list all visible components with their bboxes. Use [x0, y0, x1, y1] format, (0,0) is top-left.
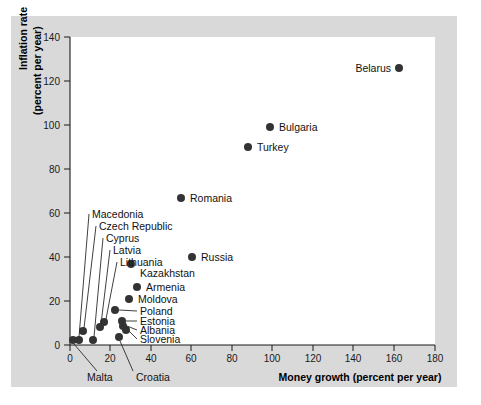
point-label-armenia: Armenia: [146, 281, 185, 293]
x-tick-label-0: 0: [67, 353, 73, 364]
dot-turkey[interactable]: [244, 143, 252, 151]
point-label-belarus: Belarus: [355, 62, 391, 74]
y-tick-label-100: 100: [43, 120, 60, 131]
x-axis-title: Money growth (percent per year): [279, 371, 442, 383]
dot-poland[interactable]: [111, 306, 119, 314]
y-tick-label-140: 140: [43, 32, 60, 43]
callout-label-cyprus: Cyprus: [106, 232, 139, 244]
figure-container: 0 20 40 60 80 100 120 140 0 20 40 60 80: [0, 0, 481, 405]
point-label-russia: Russia: [201, 251, 233, 263]
dot-bulgaria[interactable]: [266, 123, 274, 131]
x-tick-label-140: 140: [345, 353, 362, 364]
dot-czech-republic[interactable]: [79, 327, 87, 335]
dot-moldova[interactable]: [125, 295, 133, 303]
dot-latvia[interactable]: [96, 323, 104, 331]
y-tick-label-120: 120: [43, 76, 60, 87]
x-tick-label-40: 40: [145, 353, 157, 364]
dot-croatia[interactable]: [115, 333, 123, 341]
callout-label-macedonia: Macedonia: [92, 208, 144, 220]
dot-malta[interactable]: [69, 336, 77, 344]
x-tick-label-160: 160: [386, 353, 403, 364]
plot-area-background: [70, 37, 435, 345]
x-tick-label-80: 80: [226, 353, 238, 364]
x-axis: 0 20 40 60 80 100 120 140 160 180: [67, 345, 444, 364]
y-tick-label-0: 0: [54, 340, 60, 351]
dot-belarus[interactable]: [395, 64, 403, 72]
point-label-turkey: Turkey: [257, 141, 289, 153]
scatter-plot: 0 20 40 60 80 100 120 140 0 20 40 60 80: [0, 0, 481, 405]
callout-label-czech-republic: Czech Republic: [99, 220, 173, 232]
point-label-bulgaria: Bulgaria: [279, 121, 318, 133]
callout-label-croatia: Croatia: [136, 371, 170, 383]
x-tick-label-120: 120: [305, 353, 322, 364]
dot-romania[interactable]: [177, 194, 185, 202]
y-axis-title-line1: Inflation rate: [17, 7, 29, 70]
y-tick-label-80: 80: [49, 164, 61, 175]
y-axis-title-line2: (percent per year): [31, 26, 43, 115]
point-label-kazakhstan: Kazakhstan: [140, 267, 195, 279]
y-tick-label-20: 20: [49, 296, 61, 307]
y-tick-label-40: 40: [49, 252, 61, 263]
x-tick-label-60: 60: [185, 353, 197, 364]
callout-label-latvia: Latvia: [113, 244, 141, 256]
x-tick-label-180: 180: [427, 353, 444, 364]
y-tick-label-60: 60: [49, 208, 61, 219]
x-tick-label-20: 20: [104, 353, 116, 364]
dot-russia[interactable]: [188, 253, 196, 261]
x-tick-label-100: 100: [264, 353, 281, 364]
callout-label-slovenia: Slovenia: [140, 333, 180, 345]
callout-label-malta: Malta: [87, 371, 113, 383]
dot-cyprus[interactable]: [89, 336, 97, 344]
dot-armenia[interactable]: [133, 283, 141, 291]
callout-label-lithuania: Lithuania: [120, 256, 163, 268]
y-axis: 0 20 40 60 80 100 120 140: [43, 32, 70, 351]
point-label-moldova: Moldova: [138, 293, 178, 305]
point-label-romania: Romania: [190, 192, 232, 204]
